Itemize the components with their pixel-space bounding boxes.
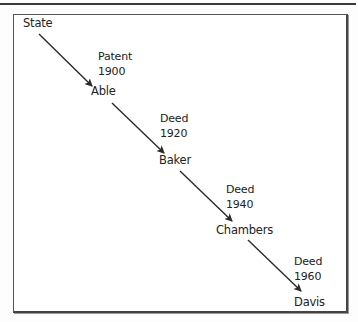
edge-label-deed-1920: Deed 1920: [160, 112, 188, 141]
node-baker: Baker: [159, 153, 191, 167]
edge-instrument: Patent: [98, 50, 132, 65]
edge-year: 1940: [226, 198, 254, 213]
edge-label-deed-1960: Deed 1960: [294, 255, 322, 284]
page-top-rule: [0, 3, 356, 5]
edge-year: 1900: [98, 65, 132, 80]
edge-instrument: Deed: [294, 255, 322, 270]
edge-year: 1960: [294, 270, 322, 285]
edge-instrument: Deed: [160, 112, 188, 127]
edge-label-patent-1900: Patent 1900: [98, 50, 132, 79]
edge-label-deed-1940: Deed 1940: [226, 183, 254, 212]
node-able: Able: [91, 84, 116, 98]
node-davis: Davis: [294, 295, 325, 309]
node-chambers: Chambers: [216, 223, 273, 237]
edge-year: 1920: [160, 127, 188, 142]
edge-instrument: Deed: [226, 183, 254, 198]
node-state: State: [23, 16, 52, 30]
